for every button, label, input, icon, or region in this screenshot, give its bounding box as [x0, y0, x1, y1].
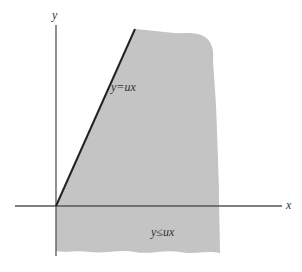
diagram: y x y=ux y≤ux: [0, 0, 302, 272]
region-label: y≤ux: [150, 225, 175, 239]
shaded-region: [56, 29, 220, 253]
line-label: y=ux: [110, 80, 136, 94]
y-axis-label: y: [51, 8, 58, 22]
x-axis-label: x: [285, 198, 292, 212]
